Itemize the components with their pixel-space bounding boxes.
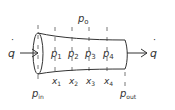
outlet-pressure-label: pout — [119, 88, 137, 100]
outlet-flow-dot: ˙ — [152, 38, 157, 49]
position-label-1: x1 — [51, 76, 61, 87]
outlet-flow-arrow — [127, 49, 147, 57]
pressure-label-4: p4 — [102, 48, 114, 61]
inlet-pressure-label: pin — [31, 88, 44, 100]
inlet-flow-arrow — [20, 49, 38, 57]
tube-diagram: q ˙ q ˙ po p1 p2 p3 p4 x1 x2 x3 x4 — [0, 0, 175, 110]
pressure-label-2: p2 — [67, 48, 79, 61]
ambient-pressure-label: po — [77, 13, 89, 26]
pressure-label-1: p1 — [50, 48, 62, 61]
position-label-4: x4 — [103, 76, 113, 87]
inlet-flow-dot: ˙ — [10, 38, 15, 49]
position-label-3: x3 — [85, 76, 95, 87]
pressure-labels: p1 p2 p3 p4 — [50, 48, 114, 61]
position-labels: x1 x2 x3 x4 — [51, 76, 113, 87]
position-label-2: x2 — [68, 76, 78, 87]
pressure-label-3: p3 — [84, 48, 96, 61]
